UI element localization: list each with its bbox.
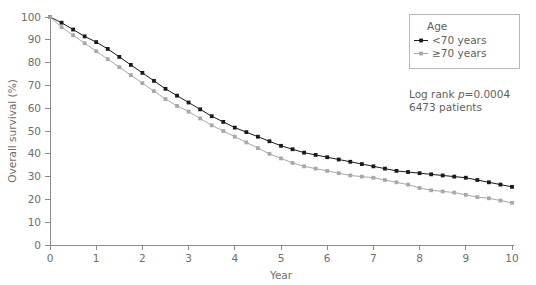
x-tick-label: 7: [370, 252, 377, 264]
data-point-marker: [291, 147, 295, 151]
data-point-marker: [129, 63, 133, 67]
data-point-marker: [164, 97, 168, 101]
legend[interactable]: Age <70 years≥70 years: [409, 14, 519, 68]
data-point-marker: [187, 101, 191, 105]
data-point-marker: [60, 25, 64, 29]
x-tick-label: 9: [462, 252, 469, 264]
data-point-marker: [198, 117, 202, 121]
y-tick-label: 70: [28, 79, 41, 91]
data-point-marker: [372, 176, 376, 180]
data-point-marker: [141, 71, 145, 75]
data-point-marker: [418, 186, 422, 190]
data-point-marker: [337, 158, 341, 162]
data-point-marker: [279, 156, 283, 160]
data-point-marker: [360, 162, 364, 166]
data-point-marker: [187, 110, 191, 114]
data-point-marker: [360, 175, 364, 179]
data-point-marker: [475, 178, 479, 182]
data-point-marker: [60, 21, 64, 25]
x-tick-label: 0: [47, 252, 54, 264]
legend-entries: <70 years≥70 years: [414, 34, 486, 59]
data-point-marker: [210, 114, 214, 118]
data-point-marker: [279, 144, 283, 148]
y-tick-label: 0: [34, 239, 41, 251]
legend-entry-label: <70 years: [432, 34, 486, 46]
data-point-marker: [83, 41, 87, 45]
data-point-marker: [198, 107, 202, 111]
x-tick-label: 4: [231, 252, 238, 264]
y-tick-label: 30: [28, 170, 41, 182]
data-point-marker: [348, 174, 352, 178]
data-point-marker: [94, 40, 98, 44]
data-point-marker: [175, 94, 179, 98]
legend-swatch-marker: [419, 52, 423, 56]
data-point-marker: [510, 201, 514, 205]
data-point-marker: [83, 34, 87, 38]
data-point-marker: [325, 169, 329, 173]
data-point-marker: [48, 15, 52, 19]
data-point-marker: [372, 164, 376, 168]
data-point-marker: [141, 81, 145, 85]
data-point-marker: [152, 89, 156, 93]
data-point-marker: [441, 174, 445, 178]
data-point-marker: [71, 28, 75, 32]
data-point-marker: [221, 129, 225, 133]
x-tick-label: 10: [505, 252, 518, 264]
data-point-marker: [395, 180, 399, 184]
data-point-marker: [325, 155, 329, 159]
data-point-marker: [464, 193, 468, 197]
data-point-marker: [221, 120, 225, 124]
data-point-marker: [337, 171, 341, 175]
data-point-marker: [429, 188, 433, 192]
data-point-marker: [210, 123, 214, 127]
data-point-marker: [348, 160, 352, 164]
data-point-marker: [487, 180, 491, 184]
data-point-marker: [175, 104, 179, 108]
data-point-marker: [233, 135, 237, 139]
y-tick-label: 10: [28, 216, 41, 228]
data-point-marker: [244, 141, 248, 145]
x-tick-label: 1: [93, 252, 100, 264]
data-point-marker: [106, 57, 110, 61]
y-axis-ticks: 0102030405060708090100: [21, 11, 50, 251]
data-point-marker: [510, 185, 514, 189]
survival-chart: 0102030405060708090100 012345678910 Over…: [0, 0, 536, 285]
chart-canvas: 0102030405060708090100 012345678910 Over…: [0, 0, 536, 285]
x-axis-ticks: 012345678910: [47, 245, 519, 264]
y-axis-title: Overall survival (%): [6, 79, 18, 183]
data-point-marker: [475, 195, 479, 199]
y-tick-label: 90: [28, 33, 41, 45]
data-point-marker: [117, 65, 121, 69]
legend-entry-label: ≥70 years: [432, 47, 486, 59]
y-tick-label: 50: [28, 125, 41, 137]
data-point-marker: [429, 172, 433, 176]
data-point-marker: [314, 153, 318, 157]
data-point-marker: [499, 199, 503, 203]
data-point-marker: [418, 171, 422, 175]
x-tick-label: 5: [278, 252, 285, 264]
data-point-marker: [94, 49, 98, 53]
legend-swatch-marker: [419, 39, 423, 43]
data-point-marker: [464, 176, 468, 180]
data-point-marker: [314, 167, 318, 171]
data-point-marker: [71, 33, 75, 37]
data-point-marker: [164, 87, 168, 91]
x-axis-title: Year: [269, 269, 293, 281]
data-point-marker: [268, 139, 272, 143]
data-point-marker: [406, 170, 410, 174]
x-tick-label: 2: [139, 252, 146, 264]
data-point-marker: [383, 167, 387, 171]
y-tick-label: 100: [21, 11, 41, 23]
data-point-marker: [302, 164, 306, 168]
y-tick-label: 80: [28, 56, 41, 68]
data-point-marker: [487, 196, 491, 200]
data-point-marker: [129, 73, 133, 77]
data-point-marker: [395, 169, 399, 173]
legend-title: Age: [427, 20, 447, 32]
data-point-marker: [152, 79, 156, 83]
data-point-marker: [452, 175, 456, 179]
data-point-marker: [291, 161, 295, 165]
x-tick-label: 3: [185, 252, 192, 264]
statistics-annotation: Log rank p=0.0004 6473 patients: [409, 88, 510, 113]
log-rank-text: Log rank p=0.0004: [409, 88, 510, 100]
